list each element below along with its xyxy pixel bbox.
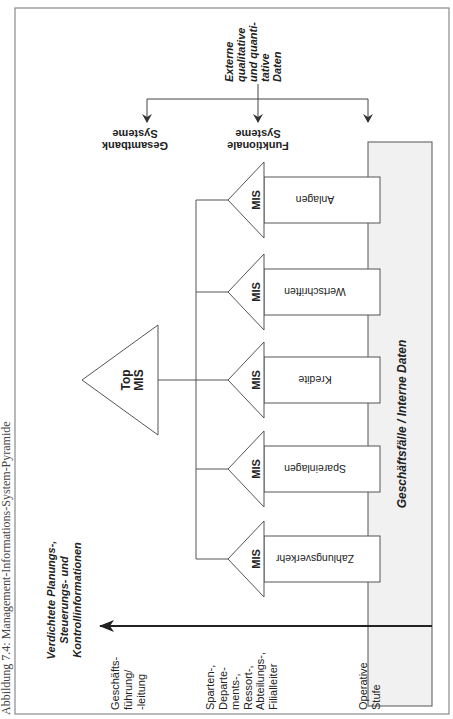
mis-unit-anlagen: MIS Anlagen: [228, 162, 380, 238]
mis-pyramid-diagram: Abbildung 7.4: Management-Informations-S…: [0, 0, 453, 719]
mis-unit-wertschriften: MIS Wertschriften: [228, 254, 380, 330]
svg-text:Gesamtbank: Gesamtbank: [101, 140, 168, 152]
svg-text:-leitung: -leitung: [135, 674, 147, 710]
svg-text:Steuerungs- und: Steuerungs- und: [58, 556, 70, 644]
level-geschaeftsfuehrung: Geschäfts- führung/ -leitung: [109, 656, 147, 710]
target-funktionale-systeme: Funktionale Systeme: [227, 128, 289, 152]
svg-text:Funktionale: Funktionale: [227, 140, 289, 152]
mis-label: MIS: [250, 282, 262, 302]
svg-text:Systeme: Systeme: [235, 128, 280, 140]
mis-connectors: [158, 200, 228, 559]
svg-text:Geschäfts-: Geschäfts-: [109, 656, 121, 710]
svg-text:Operative: Operative: [357, 662, 369, 710]
top-mis-label: Top MIS: [119, 369, 146, 390]
unit-label: Anlagen: [296, 194, 335, 206]
svg-text:qualitative: qualitative: [235, 28, 247, 82]
svg-text:tative: tative: [259, 53, 271, 82]
svg-text:MIS: MIS: [132, 369, 146, 390]
mis-unit-zahlungsverkehr: MIS Zahlungsverkehr: [228, 521, 380, 597]
svg-text:Abteilungs-,: Abteilungs-,: [254, 652, 266, 710]
svg-text:Ressort-,: Ressort-,: [242, 665, 254, 710]
svg-text:Filialleiter: Filialleiter: [267, 663, 279, 710]
unit-label: Wertschriften: [284, 286, 346, 298]
svg-text:Systeme: Systeme: [112, 128, 157, 140]
svg-text:Stufe: Stufe: [370, 684, 382, 710]
svg-text:Daten: Daten: [271, 51, 283, 82]
mis-label: MIS: [250, 459, 262, 479]
unit-label: Spareinlagen: [284, 463, 346, 475]
unit-label: Kredite: [298, 374, 331, 386]
svg-text:Departe-: Departe-: [217, 667, 229, 710]
level-sparten-leiter: Sparten-, Departe- ments-, Ressort-, Abt…: [204, 652, 279, 710]
figure-caption: Abbildung 7.4: Management-Informations-S…: [0, 421, 13, 715]
svg-text:führung/: führung/: [122, 669, 134, 710]
svg-text:und quanti-: und quanti-: [247, 22, 259, 82]
svg-text:ments-,: ments-,: [229, 673, 241, 710]
axis-title: Verdichtete Planungs-, Steuerungs- und K…: [45, 541, 83, 660]
mis-unit-spareinlagen: MIS Spareinlagen: [228, 431, 380, 507]
svg-text:Sparten-,: Sparten-,: [204, 665, 216, 710]
svg-text:Top: Top: [119, 369, 133, 390]
target-gesamtbank-systeme: Gesamtbank Systeme: [101, 128, 168, 152]
unit-label: Zahlungsverkehr: [275, 553, 354, 565]
mis-label: MIS: [250, 549, 262, 569]
svg-text:Externe: Externe: [223, 42, 235, 82]
external-data-flow: [147, 84, 368, 122]
svg-text:Kontrollinformationen: Kontrollinformationen: [71, 542, 83, 658]
mis-unit-kredite: MIS Kredite: [228, 342, 380, 418]
internal-data-label: Geschäftsfälle / Interne Daten: [395, 340, 409, 509]
mis-label: MIS: [250, 190, 262, 210]
external-data-label: Externe qualitative und quanti- tative D…: [223, 22, 283, 82]
svg-text:Verdichtete Planungs-,: Verdichtete Planungs-,: [45, 541, 57, 660]
mis-label: MIS: [250, 370, 262, 390]
